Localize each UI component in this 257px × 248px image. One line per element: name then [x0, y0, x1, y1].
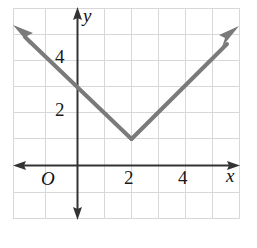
- y-axis-name-label: y: [83, 6, 91, 25]
- absolute-value-curve: [13, 25, 239, 139]
- x-axis-tick-label-2: 2: [124, 168, 134, 187]
- coordinate-plane-svg: [0, 0, 257, 248]
- origin-label: O: [41, 169, 55, 188]
- y-axis-tick-label-2: 2: [55, 100, 65, 119]
- curve-right-arrow-icon: [219, 26, 239, 47]
- x-axis-name-label: x: [226, 166, 234, 185]
- x-axis-tick-label-4: 4: [178, 168, 188, 187]
- graph-figure: 2 4 2 4 O x y: [0, 0, 257, 248]
- y-axis: [73, 7, 82, 220]
- y-axis-tick-label-4: 4: [55, 47, 65, 66]
